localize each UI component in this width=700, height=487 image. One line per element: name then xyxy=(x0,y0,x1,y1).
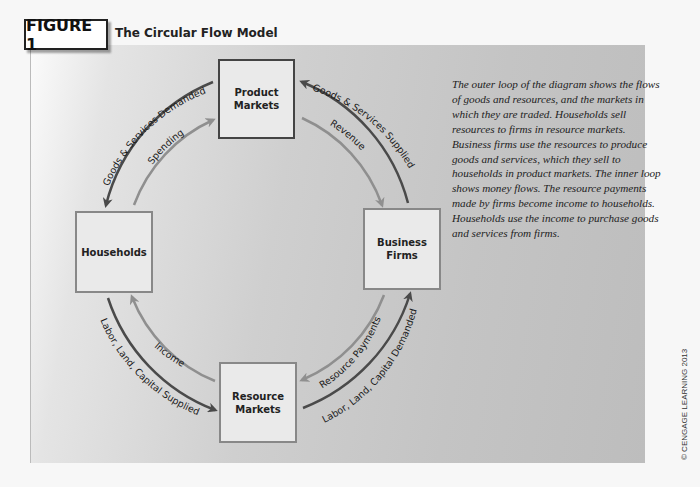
figure-caption: The outer loop of the diagram shows the … xyxy=(452,77,667,241)
node-resource-markets: ResourceMarkets xyxy=(219,362,297,443)
node-label-line: Business xyxy=(377,237,427,248)
node-households: Households xyxy=(75,211,153,293)
arrow-income xyxy=(132,297,215,381)
node-product-markets: ProductMarkets xyxy=(218,59,295,139)
copyright-notice: © CENGAGE LEARNING 2013 xyxy=(680,349,689,460)
node-label-line: Markets xyxy=(234,100,280,111)
node-label-line: Resource xyxy=(232,391,284,402)
label-goods-services-demanded: Goods & Services Demanded xyxy=(100,85,207,188)
figure-tag: FIGURE 1 xyxy=(24,19,108,50)
figure-title: The Circular Flow Model xyxy=(115,26,278,40)
label-spending: Spending xyxy=(145,127,185,166)
node-label-line: Firms xyxy=(386,250,418,261)
label-income: Income xyxy=(153,340,187,369)
node-label-line: Households xyxy=(81,246,147,259)
node-label-line: Markets xyxy=(235,404,281,415)
node-business-firms: BusinessFirms xyxy=(363,208,441,290)
node-label-line: Product xyxy=(234,87,278,98)
